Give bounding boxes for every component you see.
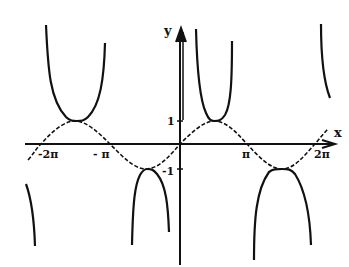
tick-label-1: 1 [167,116,175,127]
csc-branch-2 [132,169,169,245]
tick-label-neg-1: -1 [162,166,174,177]
cosecant-curve [26,24,330,260]
tick-label-pi: π [242,149,250,160]
tick-label-neg-2pi: -2π [38,149,58,160]
csc-branch-1 [46,25,105,121]
csc-branch-4 [254,169,311,260]
plot-canvas [0,0,349,267]
tick-label-2pi: 2π [314,149,330,160]
y-axis-label: y [164,24,172,37]
csc-branch-3 [196,29,232,121]
x-axis-label: x [334,126,342,139]
csc-branch-right-partial [321,24,330,98]
y-axis-arrow [176,28,186,42]
axes [25,28,335,265]
csc-branch-left-partial [26,184,35,246]
tick-label-neg-pi: - π [93,149,109,160]
